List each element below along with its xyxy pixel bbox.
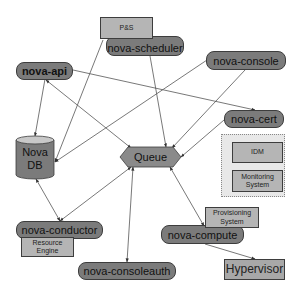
node-label: nova-consoleauth (84, 265, 171, 277)
node-label: Queue (134, 151, 167, 163)
node-label-line1: Monitoring (241, 173, 274, 181)
edge-api-queue (46, 80, 131, 148)
edge-api-db (35, 79, 45, 136)
node-idm[interactable]: IDM (232, 142, 283, 163)
node-label-line2: System (220, 218, 243, 226)
node-label: IDM (251, 148, 264, 156)
edge-consoleauth-queue (127, 167, 133, 262)
node-label: nova-console (213, 55, 278, 67)
node-ps[interactable]: P&S (100, 17, 153, 39)
node-label: P&S (119, 24, 133, 32)
node-nova-cert[interactable]: nova-cert (224, 110, 284, 128)
node-label-line2: Engine (37, 247, 59, 255)
node-provisioning-system[interactable]: Provisioning System (205, 207, 259, 228)
node-label-line2: DB (16, 159, 54, 172)
node-label: nova-compute (168, 229, 238, 241)
node-label: nova-conductor (22, 224, 98, 236)
node-queue[interactable]: Queue (120, 147, 181, 167)
node-label: nova-api (22, 65, 67, 77)
edge-conductor-db (36, 179, 60, 221)
edge-api-cert (73, 70, 255, 110)
node-nova-scheduler[interactable]: nova-scheduler (106, 36, 184, 56)
edge-compute-hypervisor (205, 244, 255, 259)
edge-compute-queue (170, 167, 204, 226)
node-nova-console[interactable]: nova-console (206, 51, 286, 70)
node-label: Hypervisor (226, 263, 283, 277)
edge-cert-queue (181, 120, 224, 157)
node-nova-db[interactable]: Nova DB (16, 146, 54, 172)
node-nova-consoleauth[interactable]: nova-consoleauth (78, 262, 176, 280)
node-label-line1: Resource (33, 239, 63, 247)
architecture-diagram: nova-scheduler P&S nova-api nova-console… (0, 0, 301, 296)
edge-scheduler-db (55, 40, 103, 162)
node-label-line1: Provisioning (213, 209, 251, 217)
node-hypervisor[interactable]: Hypervisor (224, 259, 285, 280)
node-label-line1: Nova (16, 146, 54, 159)
edge-scheduler-queue (150, 56, 166, 147)
node-resource-engine[interactable]: Resource Engine (21, 237, 74, 257)
node-nova-api[interactable]: nova-api (16, 62, 73, 80)
node-monitoring-system[interactable]: Monitoring System (232, 170, 283, 192)
node-label-line2: System (246, 181, 269, 189)
node-label: nova-cert (231, 113, 277, 125)
edge-conductor-queue (60, 167, 131, 221)
node-label: nova-scheduler (107, 42, 182, 54)
